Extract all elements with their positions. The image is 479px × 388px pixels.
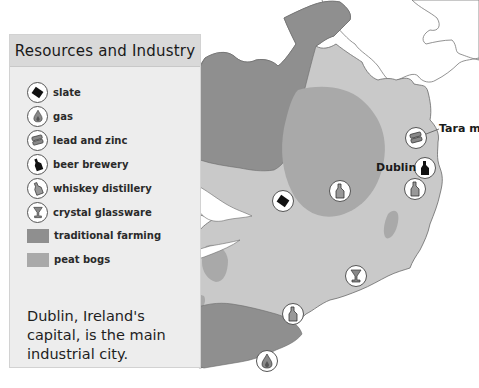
lead-zinc-ingots-icon xyxy=(27,130,48,151)
marker-beer-dublin xyxy=(414,157,436,179)
marker-crystal-waterford xyxy=(345,265,367,287)
tara-mines-leader-line xyxy=(426,127,440,137)
legend-item-lead-zinc: lead and zinc xyxy=(27,129,127,151)
legend-item-peat: peat bogs xyxy=(27,248,110,270)
marker-whiskey-cork xyxy=(282,303,304,325)
legend-label: crystal glassware xyxy=(53,207,152,218)
legend-item-whiskey: whiskey distillery xyxy=(27,177,152,199)
legend-item-beer: beer brewery xyxy=(27,153,128,175)
label-tara-mines: Tara mi xyxy=(439,122,479,135)
legend-label: traditional farming xyxy=(54,230,161,241)
legend-note: Dublin, Ireland's capital, is the main i… xyxy=(27,307,202,364)
label-dublin: Dublin xyxy=(376,161,416,174)
legend-label: whiskey distillery xyxy=(53,183,152,194)
legend-panel: Resources and Industry slate gas lead an… xyxy=(9,34,201,368)
marker-slate-central xyxy=(272,190,294,212)
slate-icon xyxy=(27,82,48,103)
peat-swatch xyxy=(27,253,49,267)
legend-label: gas xyxy=(53,111,73,122)
marker-whiskey-central xyxy=(329,180,351,202)
marker-whiskey-dublin xyxy=(404,178,426,200)
beer-bottle-icon xyxy=(27,154,48,175)
marker-gas-kinsale xyxy=(256,350,278,372)
crystal-glass-icon xyxy=(27,202,48,223)
gas-flame-icon xyxy=(27,106,48,127)
farming-swatch xyxy=(27,229,49,243)
legend-item-slate: slate xyxy=(27,81,81,103)
legend-label: peat bogs xyxy=(54,254,110,265)
legend-item-crystal: crystal glassware xyxy=(27,201,152,223)
legend-label: beer brewery xyxy=(53,159,128,170)
legend-item-gas: gas xyxy=(27,105,73,127)
legend-item-farming: traditional farming xyxy=(27,224,161,246)
legend-title: Resources and Industry xyxy=(10,35,200,67)
legend-label: slate xyxy=(53,87,81,98)
britain-outline xyxy=(412,0,479,60)
whiskey-bottle-icon xyxy=(27,178,48,199)
marker-lead-zinc-tara xyxy=(405,127,427,149)
legend-label: lead and zinc xyxy=(53,135,127,146)
